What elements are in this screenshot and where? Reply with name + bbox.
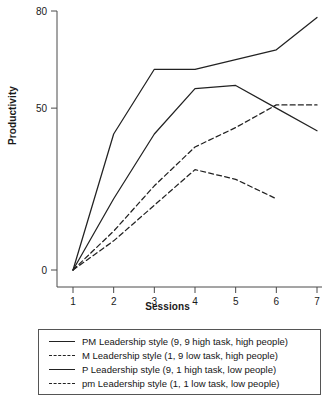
- legend-item-label: pm Leadership style (1, 1 low task, low …: [82, 378, 280, 390]
- legend-swatch-rule: [49, 369, 75, 370]
- axis-layer: 050801234567: [36, 6, 322, 308]
- figure: 050801234567 Productivity Sessions PM Le…: [0, 0, 335, 402]
- legend-item-label: M Leadership style (1, 9 low task, high …: [82, 350, 278, 362]
- legend-item-label: P Leadership style (9, 1 high task, low …: [82, 364, 276, 376]
- y-axis-label: Productivity: [7, 66, 18, 166]
- y-axis-tick-label: 80: [36, 6, 48, 17]
- legend-line-swatch-solid: [49, 337, 75, 347]
- legend-item-label: PM Leadership style (9, 9 high task, hig…: [82, 336, 288, 348]
- legend-swatch-rule: [49, 383, 75, 384]
- legend: PM Leadership style (9, 9 high task, hig…: [38, 329, 321, 395]
- series-line: [73, 105, 317, 270]
- legend-item: P Leadership style (9, 1 high task, low …: [49, 363, 320, 377]
- legend-line-swatch-dashed: [49, 351, 75, 361]
- series-layer: [73, 17, 317, 270]
- legend-item: PM Leadership style (9, 9 high task, hig…: [49, 335, 320, 349]
- legend-swatch-rule: [49, 355, 75, 356]
- x-axis-label: Sessions: [0, 301, 335, 312]
- series-line: [73, 17, 317, 270]
- plot-area: 050801234567 Productivity Sessions: [0, 0, 335, 320]
- legend-item: pm Leadership style (1, 1 low task, low …: [49, 377, 320, 391]
- legend-line-swatch-dashed: [49, 379, 75, 389]
- series-line: [73, 170, 276, 270]
- y-axis-tick-label: 50: [36, 103, 48, 114]
- series-line: [73, 85, 317, 270]
- line-chart-svg: 050801234567: [0, 0, 335, 320]
- legend-line-swatch-solid: [49, 365, 75, 375]
- y-axis-tick-label: 0: [41, 265, 47, 276]
- legend-item: M Leadership style (1, 9 low task, high …: [49, 349, 320, 363]
- legend-swatch-rule: [49, 341, 75, 342]
- legend-list: PM Leadership style (9, 9 high task, hig…: [39, 330, 320, 391]
